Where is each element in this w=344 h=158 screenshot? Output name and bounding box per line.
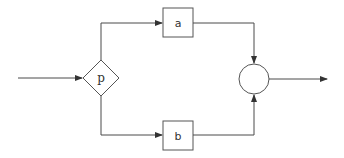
edge-b-to-join: [193, 95, 254, 135]
decision-label: p: [97, 71, 105, 85]
process-node-b: b: [163, 121, 193, 150]
flow-diagram: p a b: [0, 0, 344, 158]
edge-p-to-a: [101, 23, 162, 60]
edge-a-to-join: [193, 23, 254, 63]
decision-node-p: p: [83, 60, 119, 96]
box-a-label: a: [175, 17, 182, 30]
box-b-label: b: [175, 130, 182, 143]
edge-p-to-b: [101, 96, 162, 135]
process-node-a: a: [163, 8, 193, 37]
join-node-circle: [239, 64, 269, 94]
